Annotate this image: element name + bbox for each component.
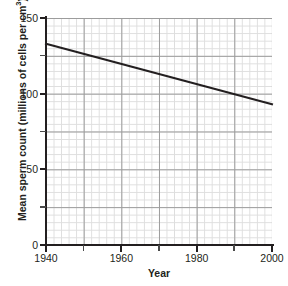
- x-axis-title: Year: [46, 268, 272, 279]
- data-series-layer: [46, 18, 272, 245]
- chart-figure: 050100150 1940196019802000 Mean sperm co…: [0, 0, 288, 286]
- y-tick-major: [40, 93, 47, 95]
- x-tick-label: 2000: [252, 253, 288, 264]
- y-axis-title-superscript: 3: [14, 2, 23, 6]
- y-tick-minor: [40, 55, 46, 57]
- plot-area: [46, 18, 272, 245]
- x-tick-minor: [158, 245, 160, 251]
- x-tick-minor: [233, 245, 235, 251]
- y-tick-minor: [40, 206, 46, 208]
- sperm-count-trend-line: [46, 44, 272, 105]
- x-tick-major: [196, 245, 198, 252]
- x-tick-minor: [83, 245, 85, 251]
- x-tick-major: [271, 245, 273, 252]
- x-tick-label: 1960: [101, 253, 141, 264]
- y-tick-label: 0: [4, 240, 38, 251]
- x-tick-major: [45, 245, 47, 252]
- clipped-header-text: [168, 0, 288, 3]
- x-tick-label: 1980: [177, 253, 217, 264]
- x-tick-major: [120, 245, 122, 252]
- y-tick-major: [40, 17, 47, 19]
- y-axis-title: Mean sperm count (millions of cells per …: [15, 7, 27, 221]
- y-tick-minor: [40, 131, 46, 133]
- y-tick-major: [40, 168, 47, 170]
- x-tick-label: 1940: [26, 253, 66, 264]
